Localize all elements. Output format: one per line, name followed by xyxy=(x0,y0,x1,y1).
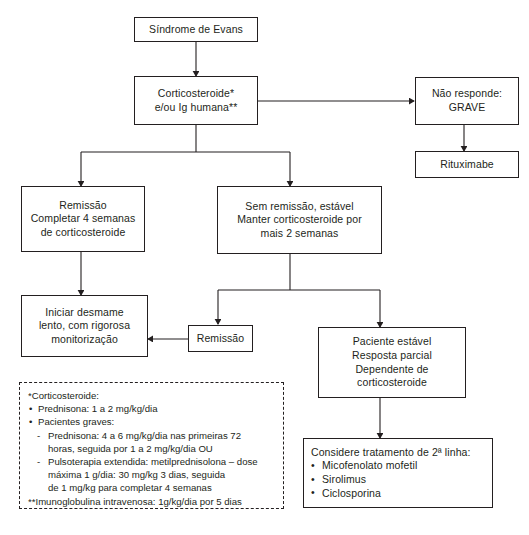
node-nao-responde-grave: Não responde: GRAVE xyxy=(415,77,519,125)
legend-line: *Corticosteroide: xyxy=(28,389,275,402)
node-line: Resposta parcial xyxy=(352,349,432,363)
node-line: Síndrome de Evans xyxy=(149,23,243,37)
legend-line: de 1 mg/kg para completar 4 semanas xyxy=(28,481,275,494)
node-line: Sem remissão, estável xyxy=(245,200,353,214)
legend-footnote-box: *Corticosteroide: Prednisona: 1 a 2 mg/k… xyxy=(19,382,284,509)
segunda-linha-header: Considere tratamento de 2ª linha: xyxy=(311,446,471,460)
node-paciente-estavel: Paciente estável Resposta parcial Depend… xyxy=(318,327,466,398)
node-line: corticosteroide xyxy=(357,376,427,390)
node-segunda-linha: Considere tratamento de 2ª linha: Micofe… xyxy=(303,438,493,508)
node-line: Dependente de xyxy=(355,363,428,377)
node-line: e/ou Ig humana** xyxy=(155,101,238,115)
node-line: monitorização xyxy=(51,333,118,347)
node-line: de corticosteroide xyxy=(41,226,126,240)
node-line: Manter corticosteroide por xyxy=(237,213,362,227)
legend-line: Prednisona: 1 a 2 mg/kg/dia xyxy=(28,402,275,415)
node-line: GRAVE xyxy=(449,101,485,115)
node-line: Rituximabe xyxy=(440,158,494,172)
node-sem-remissao-estavel: Sem remissão, estável Manter corticoster… xyxy=(217,186,382,254)
legend-line: Pulsoterapia extendida: metilprednisolon… xyxy=(28,455,275,468)
node-line: Completar 4 semanas xyxy=(31,212,136,226)
node-line: lento, com rigorosa xyxy=(39,319,130,333)
node-sindrome-de-evans: Síndrome de Evans xyxy=(134,17,258,42)
node-line: Corticosteroide* xyxy=(158,87,234,101)
node-line: Paciente estável xyxy=(353,335,432,349)
flowchart-canvas: Síndrome de Evans Corticosteroide* e/ou … xyxy=(0,0,529,535)
legend-line: **Imunoglobulina intravenosa: 1g/kg/dia … xyxy=(28,495,275,508)
segunda-linha-item: Micofenolato mofetil xyxy=(311,459,417,473)
legend-line: horas, seguida por 1 a 2 mg/kg/dia OU xyxy=(28,442,275,455)
segunda-linha-item: Sirolimus xyxy=(311,473,366,487)
legend-line: máxima 1 g/dia: 30 mg/kg 3 dias, seguida xyxy=(28,468,275,481)
node-line: Não responde: xyxy=(432,87,502,101)
node-line: Remissão xyxy=(59,199,106,213)
node-rituximabe: Rituximabe xyxy=(415,151,519,178)
node-line: Iniciar desmame xyxy=(45,306,124,320)
legend-line: Pacientes graves: xyxy=(28,415,275,428)
legend-line: Prednisona: 4 a 6 mg/kg/dia nas primeira… xyxy=(28,429,275,442)
node-remissao-completar-4-semanas: Remissão Completar 4 semanas de corticos… xyxy=(21,186,145,252)
node-remissao: Remissão xyxy=(188,325,253,352)
node-iniciar-desmame: Iniciar desmame lento, com rigorosa moni… xyxy=(21,295,148,357)
node-line: mais 2 semanas xyxy=(261,227,339,241)
segunda-linha-item: Ciclosporina xyxy=(311,487,381,501)
node-corticosteroide: Corticosteroide* e/ou Ig humana** xyxy=(134,76,258,125)
node-line: Remissão xyxy=(197,332,244,346)
